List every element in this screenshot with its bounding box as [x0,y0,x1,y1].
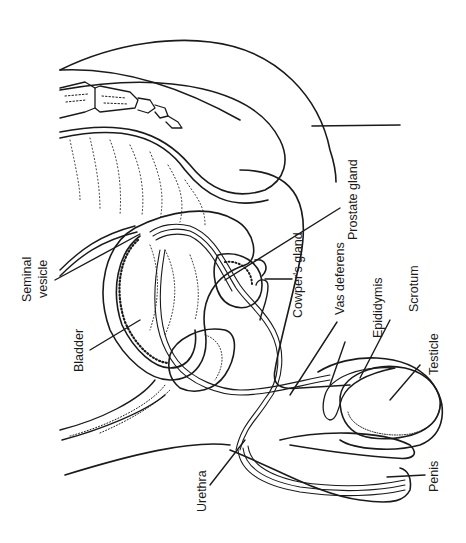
bladder-wall [103,211,254,380]
label-seminal-vesicle-2: vesicle [37,260,50,298]
leader-epididymis [330,342,345,385]
label-bladder: Bladder [73,329,86,372]
label-epididymis: Epididymis [372,278,385,338]
anatomy-illustration [0,0,466,543]
label-seminal-vesicle-1: Seminal [21,257,34,302]
label-testicle: Testicle [428,333,441,375]
rectum-outer [60,82,285,193]
label-urethra: Urethra [196,470,209,512]
label-cowpers-gland: Cowper's gland [292,232,305,318]
leader-testicle [390,365,420,400]
spine-icon [60,82,182,128]
leader-lines [55,208,425,485]
testicle [340,367,440,439]
label-prostate-gland: Prostate gland [347,159,360,240]
leader-penis [387,475,425,477]
label-scrotum: Scrotum [408,265,421,312]
anatomy-diagram: Seminal vesicle Bladder Cowper's gland P… [0,0,466,543]
label-vas-deferens: Vas deferens [334,242,347,315]
urethra-duct [238,446,405,496]
leader-prostate-gland [225,208,340,280]
leader-urethra [210,440,245,485]
sacrum-outer [60,70,240,120]
penis-upper [280,433,414,458]
label-penis: Penis [428,461,441,492]
abdomen-line [312,125,400,126]
